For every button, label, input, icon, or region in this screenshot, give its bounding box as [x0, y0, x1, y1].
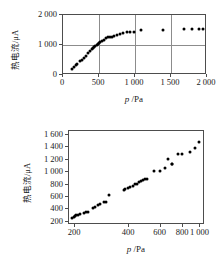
gridline-horizontal — [63, 45, 205, 46]
y-axis-tick — [65, 208, 68, 209]
x-axis-tick-label: 600 — [153, 228, 166, 237]
data-point — [158, 170, 161, 173]
data-point — [167, 157, 170, 160]
data-point — [104, 200, 107, 203]
y-axis-tick-label: 1 000 — [44, 167, 63, 176]
data-point — [197, 27, 200, 30]
data-point — [177, 152, 180, 155]
data-point — [181, 152, 184, 155]
data-point — [202, 28, 205, 31]
y-axis-tick-label: 2 000 — [38, 10, 57, 19]
x-axis-tick-label: 800 — [176, 228, 189, 237]
data-point — [118, 32, 121, 35]
y-axis-tick — [59, 44, 62, 45]
x-axis-tick-label: 1 000 — [190, 228, 209, 237]
data-point — [129, 31, 132, 34]
y-axis-tick-label: 0 — [53, 70, 57, 79]
gridline-vertical — [171, 15, 172, 73]
data-point — [198, 141, 201, 144]
y-axis-tick-label: 1 200 — [44, 154, 63, 163]
data-point — [146, 177, 149, 180]
figure-container: 05001 0001 5002 00001 0002 000 热电流/μA p … — [0, 0, 221, 256]
y-axis-title-top: 热电流/μA — [8, 30, 20, 70]
y-axis-tick-label: 600 — [50, 191, 63, 200]
data-point — [79, 213, 82, 216]
y-axis-tick — [65, 221, 68, 222]
data-point — [190, 28, 193, 31]
x-axis-tick-label: 0 — [60, 78, 64, 87]
y-axis-tick — [65, 196, 68, 197]
y-axis-tick-label: 200 — [50, 216, 63, 225]
y-axis-tick — [59, 74, 62, 75]
data-point — [122, 32, 125, 35]
data-point — [76, 63, 79, 66]
data-point — [140, 28, 143, 31]
x-axis-tick-label: 2 000 — [196, 78, 215, 87]
data-point — [188, 151, 191, 154]
x-axis-tick-label: 1 000 — [124, 78, 143, 87]
x-axis-title-bottom: p /Pa — [127, 244, 145, 254]
y-axis-tick — [65, 184, 68, 185]
y-axis-tick-label: 800 — [50, 179, 63, 188]
plot-area-top — [62, 14, 206, 74]
y-axis-title-bottom: 热电流/μA — [20, 163, 32, 203]
x-axis-title-top: p /Pa — [125, 94, 143, 104]
y-axis-tick-label: 1 000 — [38, 40, 57, 49]
y-axis-tick — [65, 171, 68, 172]
data-point — [171, 162, 174, 165]
data-point — [125, 31, 128, 34]
y-axis-tick-label: 1 400 — [44, 142, 63, 151]
y-axis-tick — [59, 14, 62, 15]
data-point — [183, 28, 186, 31]
data-point — [163, 166, 166, 169]
data-point — [161, 28, 164, 31]
x-axis-tick-label: 400 — [122, 228, 135, 237]
gridline-vertical — [135, 15, 136, 73]
data-point — [133, 30, 136, 33]
x-axis-tick-label: 1 500 — [160, 78, 179, 87]
chart-panel-bottom: 2004006008001 0002004006008001 0001 2001… — [0, 124, 221, 256]
data-point — [87, 210, 90, 213]
y-axis-tick — [65, 146, 68, 147]
data-point — [153, 170, 156, 173]
x-axis-tick-label: 200 — [68, 228, 81, 237]
y-axis-tick — [65, 134, 68, 135]
y-axis-tick-label: 400 — [50, 204, 63, 213]
x-axis-tick-label: 500 — [92, 78, 105, 87]
chart-panel-top: 05001 0001 5002 00001 0002 000 热电流/μA p … — [0, 0, 221, 124]
data-point — [107, 193, 110, 196]
y-axis-tick — [65, 159, 68, 160]
data-point — [193, 147, 196, 150]
y-axis-tick-label: 1 600 — [44, 129, 63, 138]
